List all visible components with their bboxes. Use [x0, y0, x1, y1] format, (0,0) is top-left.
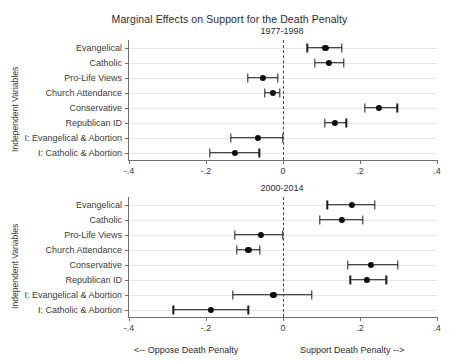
x-axis-tick — [437, 317, 438, 321]
confidence-interval-cap — [236, 245, 237, 254]
estimate-point — [348, 201, 354, 207]
y-axis-label: Church Attendance — [45, 245, 122, 255]
estimate-point — [322, 44, 328, 50]
y-axis-label: I: Evangelical & Abortion — [24, 290, 122, 300]
x-axis-tick — [129, 160, 130, 164]
y-axis-tick — [125, 93, 129, 94]
y-axis-title-bottom: Independent Variables — [10, 205, 20, 309]
y-axis-tick — [125, 48, 129, 49]
y-axis-label: Evangelical — [76, 200, 122, 210]
confidence-interval-cap — [258, 148, 259, 157]
footnote-oppose: <-- Oppose Death Penalty — [134, 345, 238, 355]
estimate-point — [326, 59, 332, 65]
y-axis-label: I: Evangelical & Abortion — [24, 133, 122, 143]
confidence-interval-cap — [324, 118, 325, 127]
plot-area-bottom: EvangelicalCatholicPro-Life ViewsChurch … — [128, 197, 437, 318]
y-axis-tick — [125, 280, 129, 281]
estimate-point — [245, 246, 251, 252]
zero-reference-line — [283, 197, 284, 317]
confidence-interval-cap — [327, 200, 328, 209]
y-axis-tick — [125, 250, 129, 251]
confidence-interval-cap — [314, 58, 315, 67]
chart-root: Marginal Effects on Support for the Deat… — [0, 0, 459, 361]
x-axis-tick — [360, 317, 361, 321]
panel-subtitle-top: 1977-1998 — [128, 26, 436, 36]
x-axis-tick — [129, 317, 130, 321]
y-axis-tick — [125, 78, 129, 79]
y-axis-tick — [125, 108, 129, 109]
y-axis-tick — [125, 138, 129, 139]
confidence-interval-cap — [374, 200, 375, 209]
confidence-interval-cap — [307, 43, 308, 52]
y-axis-tick — [125, 235, 129, 236]
x-axis-tick — [360, 160, 361, 164]
x-axis-tick-label: -.2 — [201, 323, 212, 333]
confidence-interval-cap — [350, 275, 351, 284]
estimate-point — [270, 291, 276, 297]
chart-title: Marginal Effects on Support for the Deat… — [0, 13, 459, 25]
confidence-interval-cap — [319, 215, 320, 224]
estimate-point — [255, 134, 261, 140]
estimate-point — [376, 104, 382, 110]
confidence-interval-cap — [232, 290, 233, 299]
y-axis-tick — [125, 220, 129, 221]
footnote-support: Support Death Penalty --> — [300, 345, 404, 355]
confidence-interval-cap — [173, 305, 174, 314]
estimate-point — [270, 89, 276, 95]
x-axis-tick-label: .4 — [433, 166, 441, 176]
plot-area-top: EvangelicalCatholicPro-Life ViewsChurch … — [128, 40, 437, 161]
confidence-interval-cap — [209, 148, 210, 157]
x-axis-tick-label: .2 — [356, 323, 364, 333]
y-axis-tick — [125, 310, 129, 311]
y-axis-label: Conservative — [69, 103, 122, 113]
confidence-interval-cap — [248, 305, 249, 314]
y-axis-label: I: Catholic & Abortion — [38, 148, 122, 158]
zero-reference-line — [283, 40, 284, 160]
x-axis-tick — [283, 317, 284, 321]
estimate-point — [368, 261, 374, 267]
y-axis-tick — [125, 265, 129, 266]
y-axis-tick — [125, 295, 129, 296]
x-axis-tick — [437, 160, 438, 164]
confidence-interval-cap — [234, 230, 235, 239]
confidence-interval-cap — [397, 260, 398, 269]
confidence-interval-cap — [385, 275, 386, 284]
y-axis-label: Pro-Life Views — [64, 73, 122, 83]
estimate-point — [338, 216, 344, 222]
y-axis-label: Church Attendance — [45, 88, 122, 98]
confidence-interval-cap — [277, 73, 278, 82]
confidence-interval-cap — [343, 58, 344, 67]
estimate-point — [364, 276, 370, 282]
x-axis-tick-label: 0 — [280, 166, 285, 176]
confidence-interval-cap — [364, 103, 365, 112]
y-axis-tick — [125, 205, 129, 206]
panel-subtitle-bottom: 2000-2014 — [128, 183, 436, 193]
y-axis-label: Republican ID — [65, 118, 122, 128]
y-axis-label: Pro-Life Views — [64, 230, 122, 240]
y-axis-label: Catholic — [89, 215, 122, 225]
estimate-point — [260, 74, 266, 80]
confidence-interval-cap — [230, 133, 231, 142]
confidence-interval-cap — [264, 88, 265, 97]
x-axis-tick — [206, 160, 207, 164]
x-axis-tick — [283, 160, 284, 164]
y-axis-label: Catholic — [89, 58, 122, 68]
confidence-interval-cap — [311, 290, 312, 299]
estimate-point — [208, 306, 214, 312]
confidence-interval-cap — [341, 43, 342, 52]
y-axis-label: Republican ID — [65, 275, 122, 285]
estimate-point — [332, 119, 338, 125]
confidence-interval-cap — [259, 245, 260, 254]
confidence-interval-cap — [279, 88, 280, 97]
x-axis-tick-label: .4 — [433, 323, 441, 333]
x-axis-tick — [206, 317, 207, 321]
confidence-interval-cap — [397, 103, 398, 112]
y-axis-tick — [125, 153, 129, 154]
y-axis-title-top: Independent Variables — [10, 48, 20, 152]
estimate-point — [258, 231, 264, 237]
x-axis-tick-label: 0 — [280, 323, 285, 333]
x-axis-tick-label: -.4 — [124, 323, 135, 333]
x-axis-tick-label: .2 — [356, 166, 364, 176]
y-axis-label: I: Catholic & Abortion — [38, 305, 122, 315]
y-axis-label: Conservative — [69, 260, 122, 270]
